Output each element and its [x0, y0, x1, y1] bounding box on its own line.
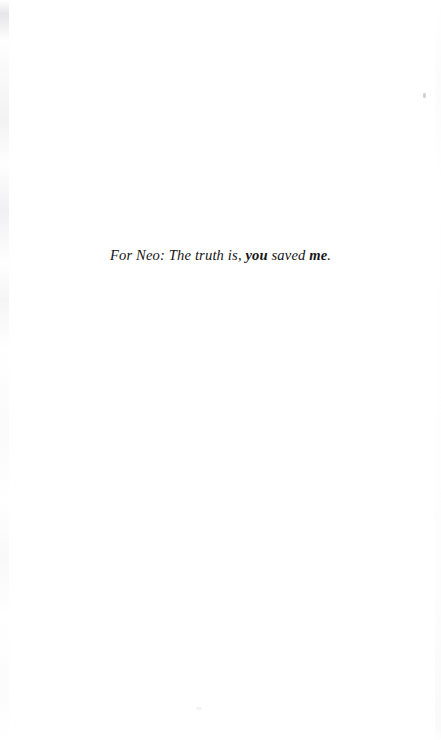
dedication-block: For Neo: The truth is, you saved me.	[0, 231, 441, 278]
scan-edge-shadow	[435, 0, 441, 740]
dedication-emphasis-me: me	[309, 247, 327, 263]
dedication-text-part-1: For Neo: The truth is,	[110, 247, 246, 263]
scan-speck-icon	[423, 93, 426, 98]
dedication-text-part-2: saved	[268, 247, 310, 263]
dedication-text-part-3: .	[327, 247, 331, 263]
dedication-emphasis-you: you	[245, 247, 267, 263]
dedication-page: For Neo: The truth is, you saved me.	[0, 0, 441, 740]
scan-speck-secondary-icon	[196, 707, 202, 710]
dedication-text: For Neo: The truth is, you saved me.	[110, 246, 331, 264]
scan-gutter-shadow	[0, 0, 9, 740]
